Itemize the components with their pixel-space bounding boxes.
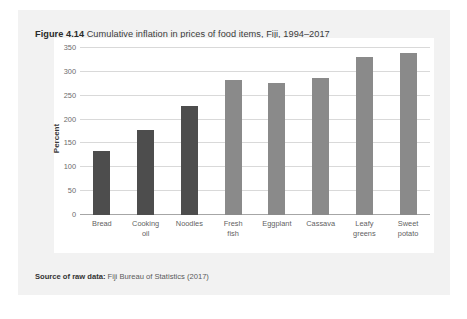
x-axis-label-noodles: Noodles: [168, 219, 212, 238]
y-axis-tick-label: 100: [64, 162, 76, 171]
y-axis-tick-label: 250: [64, 90, 76, 99]
x-axis-label-leafy-greens: Leafygreens: [343, 219, 387, 238]
bar-slot: [211, 48, 255, 215]
bar-slot: [386, 48, 430, 215]
chart-plot-area: Percent 050100150200250300350 BreadCooki…: [54, 38, 434, 253]
bar-sweet-potato: [400, 53, 417, 215]
y-axis-tick-label: 350: [64, 43, 76, 52]
bar-slot: [124, 48, 168, 215]
x-axis-label-cooking-oil: Cookingoil: [124, 219, 168, 238]
x-axis-label-fresh-fish: Freshfish: [211, 219, 255, 238]
source-note: Source of raw data: Fiji Bureau of Stati…: [35, 272, 209, 281]
chart-bars: [80, 48, 430, 215]
bar-fresh-fish: [225, 80, 242, 215]
bar-slot: [343, 48, 387, 215]
bar-cooking-oil: [137, 130, 154, 215]
x-axis-label-bread: Bread: [80, 219, 124, 238]
y-axis-title: Percent: [52, 109, 61, 169]
figure-panel: Figure 4.14 Cumulative inflation in pric…: [18, 10, 450, 295]
source-text: Fiji Bureau of Statistics (2017): [108, 272, 209, 281]
bar-noodles: [181, 106, 198, 215]
y-axis-tick-label: 150: [64, 138, 76, 147]
x-axis-labels: BreadCookingoilNoodlesFreshfishEggplantC…: [80, 219, 430, 238]
x-axis-label-cassava: Cassava: [299, 219, 343, 238]
bar-eggplant: [268, 83, 285, 215]
bar-leafy-greens: [356, 57, 373, 215]
y-axis-tick-label: 200: [64, 114, 76, 123]
bar-slot: [168, 48, 212, 215]
y-axis-tick-label: 50: [68, 186, 76, 195]
bar-slot: [255, 48, 299, 215]
x-axis-label-sweet-potato: Sweetpotato: [386, 219, 430, 238]
bar-slot: [299, 48, 343, 215]
bar-cassava: [312, 78, 329, 215]
x-axis-label-eggplant: Eggplant: [255, 219, 299, 238]
source-label: Source of raw data:: [35, 272, 105, 281]
y-axis-tick-label: 0: [72, 210, 76, 219]
bar-bread: [93, 151, 110, 215]
bar-slot: [80, 48, 124, 215]
y-axis-tick-label: 300: [64, 66, 76, 75]
